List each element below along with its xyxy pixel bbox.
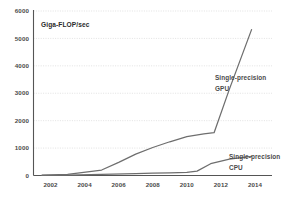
series-line-cpu bbox=[42, 156, 252, 175]
y-tick-label: 2000 bbox=[15, 117, 30, 124]
x-tick-label: 2006 bbox=[112, 181, 127, 188]
series-line-gpu bbox=[42, 30, 252, 176]
gpu-label-line1: Single-precision bbox=[215, 74, 266, 82]
y-tick-labels-group: 0100020003000400050006000 bbox=[15, 7, 30, 179]
series-label-cpu: Single-precision CPU bbox=[229, 153, 280, 171]
y-tick-label: 6000 bbox=[15, 7, 30, 14]
y-tick-label: 5000 bbox=[15, 35, 30, 42]
chart-container: 0100020003000400050006000 20022004200620… bbox=[0, 0, 302, 201]
chart-axis-title: Giga-FLOP/sec bbox=[41, 21, 90, 29]
axes-group bbox=[34, 10, 273, 176]
x-tick-label: 2004 bbox=[78, 181, 93, 188]
gigaflops-line-chart: 0100020003000400050006000 20022004200620… bbox=[0, 0, 302, 201]
y-tick-label: 0 bbox=[25, 172, 29, 179]
x-tick-label: 2012 bbox=[214, 181, 229, 188]
x-tick-label: 2010 bbox=[180, 181, 195, 188]
cpu-label-line1: Single-precision bbox=[229, 153, 280, 161]
y-tick-label: 1000 bbox=[15, 144, 30, 151]
y-tick-label: 4000 bbox=[15, 62, 30, 69]
cpu-label-line2: CPU bbox=[229, 164, 243, 171]
series-label-gpu: Single-precision GPU bbox=[215, 74, 266, 92]
x-tick-label: 2002 bbox=[43, 181, 58, 188]
x-tick-label: 2014 bbox=[248, 181, 263, 188]
gpu-label-line2: GPU bbox=[215, 85, 229, 92]
x-tick-labels-group: 2002200420062008201020122014 bbox=[43, 181, 262, 188]
series-group bbox=[42, 30, 252, 176]
x-tick-label: 2008 bbox=[146, 181, 161, 188]
y-tick-label: 3000 bbox=[15, 89, 30, 96]
